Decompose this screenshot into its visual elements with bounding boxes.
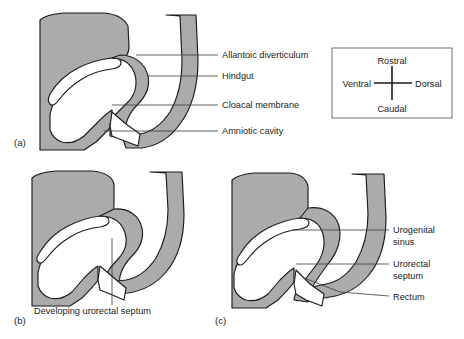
compass-label-caudal: Caudal — [377, 104, 406, 114]
compass-label-rostral: Rostral — [377, 56, 406, 66]
panel-a-hindgut-arm — [122, 15, 198, 148]
label-rectum: Rectum — [393, 292, 425, 302]
label-allantoic-diverticulum: Allantoic diverticulum — [222, 50, 309, 60]
panel-letter-b: (b) — [14, 315, 26, 326]
label-urorectal-septum-line2: septum — [393, 271, 423, 281]
panel-letter-c: (c) — [215, 315, 226, 326]
compass-label-dorsal: Dorsal — [415, 79, 442, 89]
label-cloacal-membrane: Cloacal membrane — [222, 100, 299, 110]
panel-b-hindgut-arm — [110, 172, 184, 294]
panel-b: Developing urorectal septum (b) — [14, 171, 184, 326]
panel-a: Allantoic diverticulum Hindgut Cloacal m… — [14, 13, 309, 150]
label-urogenital-sinus-line1: Urogenital — [393, 225, 435, 235]
label-urogenital-sinus-line2: sinus — [393, 237, 415, 247]
panel-letter-a: (a) — [14, 137, 26, 148]
label-urorectal-septum-line1: Urorectal — [393, 259, 430, 269]
label-developing-urorectal-septum: Developing urorectal septum — [34, 306, 151, 316]
panel-c-hindgut-arm — [308, 174, 386, 300]
anatomical-figure: Allantoic diverticulum Hindgut Cloacal m… — [0, 0, 464, 339]
label-amniotic-cavity: Amniotic cavity — [222, 126, 284, 136]
panel-c: Urogenital sinus Urorectal septum Rectum… — [215, 173, 435, 326]
orientation-compass: Rostral Ventral Dorsal Caudal — [332, 48, 452, 118]
label-hindgut: Hindgut — [222, 71, 254, 81]
compass-label-ventral: Ventral — [342, 79, 371, 89]
